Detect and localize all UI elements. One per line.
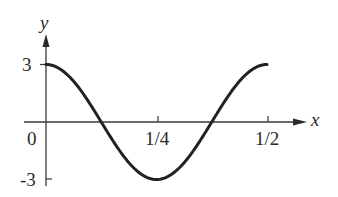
- y-tick-label-neg3: -3: [20, 170, 36, 189]
- y-tick-label-3: 3: [22, 55, 32, 74]
- cosine-plot: [0, 0, 338, 197]
- y-axis-label: y: [40, 13, 48, 32]
- x-axis-label: x: [311, 110, 319, 129]
- origin-label: 0: [27, 129, 37, 148]
- x-axis-arrow-icon: [293, 119, 307, 126]
- y-axis-arrow-icon: [43, 34, 50, 47]
- x-tick-label-quarter: 1/4: [145, 129, 169, 148]
- x-tick-label-half: 1/2: [255, 129, 279, 148]
